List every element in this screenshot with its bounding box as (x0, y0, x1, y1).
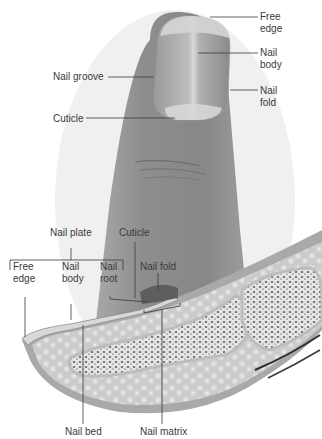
label-cuticle-top: Cuticle (53, 113, 84, 125)
label-nail-fold-section: Nail fold (140, 261, 176, 273)
label-nail-plate: Nail plate (50, 227, 92, 239)
label-free-edge-top: Free edge (260, 11, 282, 35)
label-nail-body-section: Nail body (62, 261, 84, 285)
label-nail-matrix: Nail matrix (140, 426, 187, 438)
label-nail-root: Nail root (100, 261, 117, 285)
label-free-edge-section: Free edge (13, 261, 35, 285)
label-nail-body-top: Nail body (260, 47, 282, 71)
label-nail-fold-top: Nail fold (260, 85, 277, 109)
label-cuticle-section: Cuticle (119, 227, 150, 239)
nail-anatomy-figure: Free edge Nail body Nail groove Nail fol… (0, 0, 322, 439)
label-nail-groove: Nail groove (53, 71, 104, 83)
label-nail-bed: Nail bed (65, 426, 102, 438)
